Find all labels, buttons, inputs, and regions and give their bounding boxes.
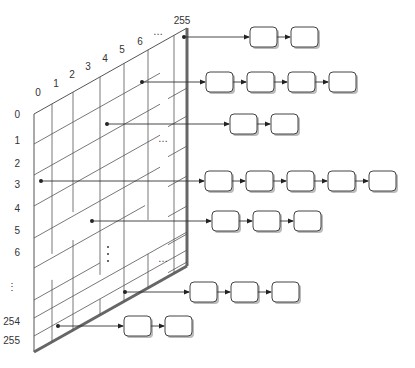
row-label: 255 [3,335,20,346]
grid-row-line [34,206,145,268]
column-label: 6 [137,36,143,47]
list-node [287,171,314,191]
grid-bottom-edge [34,266,187,352]
list-node [205,171,232,191]
chain-2 [105,114,300,136]
row-label: ⋮ [7,281,17,292]
row-label: 0 [14,109,20,120]
chain-3 [39,171,398,193]
chains [39,27,398,338]
row-label: 254 [3,316,20,327]
ellipsis-dot [107,246,109,248]
grid-row-tick [168,146,187,157]
list-node [271,114,298,134]
list-node [250,27,277,47]
list-node [124,316,151,336]
list-node [206,72,233,92]
list-node [190,282,217,302]
grid-row-line [34,167,160,238]
row-label: 4 [14,203,20,214]
column-label: 255 [174,15,191,26]
grid-row-tick [168,234,187,245]
list-node [247,72,274,92]
chain-0 [182,27,320,49]
row-label: 3 [14,179,20,190]
grid-row-line [34,135,160,206]
ellipsis-horizontal: … [158,133,168,144]
column-label: … [153,26,163,37]
list-node [294,211,321,231]
row-label: 2 [14,158,20,169]
list-node [369,171,396,191]
column-label: 5 [119,44,125,55]
hash-table-diagram: 0123456⋮2542550123456…255…… [0,0,415,368]
column-label: 0 [35,87,41,98]
column-label: 2 [69,69,75,80]
list-node [291,27,318,47]
list-node [212,211,239,231]
list-node [328,171,355,191]
column-label: 1 [53,78,59,89]
grid-row-tick [168,206,187,217]
grid-row-line [34,104,160,175]
grid [34,28,187,352]
chain-4 [90,211,323,233]
list-node [246,171,273,191]
grid-row-line [34,232,187,318]
chain-1 [140,72,358,94]
list-node [230,114,257,134]
axis-labels: 0123456⋮2542550123456…255…… [3,15,190,346]
list-node [165,316,192,336]
row-label: 5 [14,225,20,236]
list-node [329,72,356,92]
column-label: 3 [85,61,91,72]
row-label: 1 [14,135,20,146]
list-node [272,282,299,302]
list-node [231,282,258,302]
ellipsis-dot [107,260,109,262]
ellipsis-horizontal: … [158,253,168,264]
list-node [253,211,280,231]
column-label: 4 [102,53,108,64]
row-label: 6 [14,247,20,258]
grid-row-tick [168,88,187,99]
list-node [288,72,315,92]
ellipsis-dot [107,253,109,255]
grid-row-line [34,263,100,300]
grid-row-tick [168,116,187,127]
